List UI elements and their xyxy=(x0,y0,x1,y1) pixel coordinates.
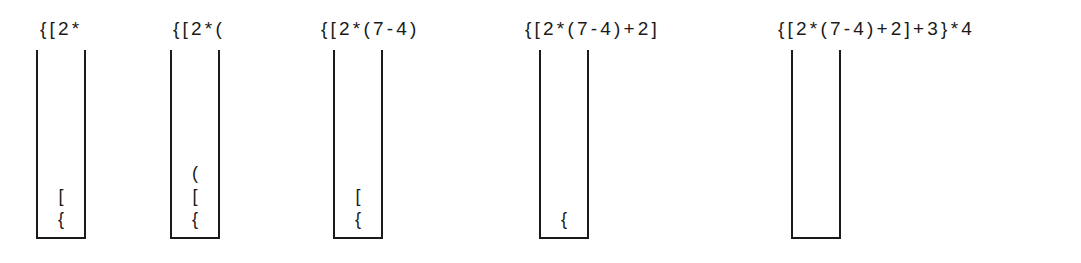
step-4-stack-items: { xyxy=(541,208,587,231)
stack-item: [ xyxy=(172,185,218,208)
step-3-stack-items: { [ xyxy=(335,185,381,231)
stack-item: { xyxy=(172,208,218,231)
step-2-stack: { [ ( xyxy=(170,50,220,239)
step-5-stack xyxy=(791,50,841,239)
step-1-expression: {[2* xyxy=(40,17,82,41)
stack-item: { xyxy=(335,208,381,231)
step-2-expression: {[2*( xyxy=(173,17,225,41)
stack-item: { xyxy=(38,208,84,231)
stack-item: [ xyxy=(38,185,84,208)
step-3-expression: {[2*(7-4) xyxy=(321,17,420,41)
stack-item: ( xyxy=(172,162,218,185)
stack-trace-diagram: {[2* { [ {[2*( { [ ( {[2*(7-4) { [ xyxy=(0,0,1081,263)
step-4-expression: {[2*(7-4)+2] xyxy=(525,17,660,41)
step-3-stack: { [ xyxy=(333,50,383,239)
step-4-stack: { xyxy=(539,50,589,239)
step-2-stack-items: { [ ( xyxy=(172,162,218,231)
stack-item: { xyxy=(541,208,587,231)
step-1-stack-items: { [ xyxy=(38,185,84,231)
step-1-stack: { [ xyxy=(36,50,86,239)
step-5-expression: {[2*(7-4)+2]+3}*4 xyxy=(778,17,975,41)
stack-item: [ xyxy=(335,185,381,208)
